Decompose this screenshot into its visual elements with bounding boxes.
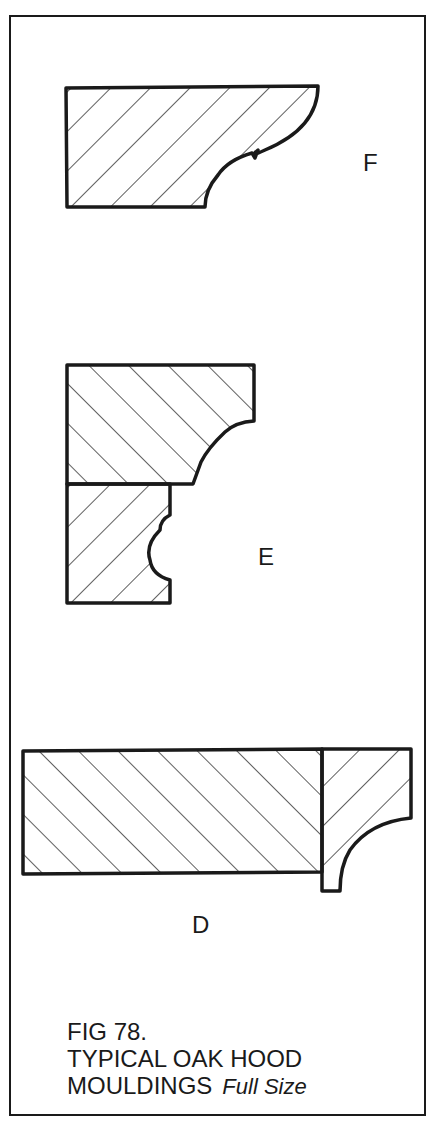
profile-f [66,86,318,207]
profile-label-d: D [192,913,209,937]
profile-d-board [23,749,322,874]
profile-d-cove [322,749,411,891]
profile-e-upper [67,365,254,484]
profile-label-f: F [363,151,378,175]
figure-title-line1: TYPICAL OAK HOOD [67,1045,307,1072]
figure-scale-note: Full Size [222,1074,306,1099]
figure-title-line2: MOULDINGSFull Size [67,1072,307,1100]
profile-e-lower [67,484,170,603]
figure-number: FIG 78. [67,1018,307,1045]
figure-caption: FIG 78. TYPICAL OAK HOOD MOULDINGSFull S… [67,1018,307,1100]
profile-label-e: E [258,545,274,569]
figure-title-mouldings: MOULDINGS [67,1072,212,1099]
